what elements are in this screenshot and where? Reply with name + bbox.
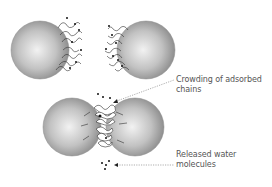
label-crowding-line1: Crowding of adsorbed xyxy=(176,75,262,85)
label-crowding-line2: chains xyxy=(176,85,262,95)
released-water-molecules xyxy=(101,160,110,170)
sphere-left-bottom xyxy=(43,98,101,156)
label-crowding-of-adsorbed-chains: Crowding of adsorbed chains xyxy=(176,75,262,95)
leader-crowding xyxy=(114,80,174,102)
label-released-water-molecules: Released water molecules xyxy=(176,150,236,170)
approached-particles xyxy=(43,93,164,170)
sphere-left-top xyxy=(11,21,69,79)
arrowhead-water xyxy=(114,163,118,167)
arrowhead-crowding xyxy=(113,99,118,103)
label-water-line2: molecules xyxy=(176,160,236,170)
separated-particles xyxy=(11,17,175,79)
label-water-line1: Released water xyxy=(176,150,236,160)
sphere-right-top xyxy=(117,21,175,79)
